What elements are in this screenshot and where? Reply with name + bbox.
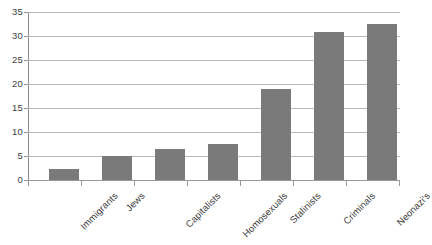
x-axis-baseline	[28, 180, 400, 181]
bar-immigrants[interactable]	[49, 169, 79, 180]
x-tick-mark	[134, 181, 135, 186]
x-tick-mark	[293, 181, 294, 186]
x-tick-mark	[187, 181, 188, 186]
bar-criminals[interactable]	[314, 32, 344, 180]
y-tick-label: 10	[3, 127, 23, 137]
bar-neonazis[interactable]	[367, 24, 397, 180]
y-axis-tick-labels: 35 30 25 20 15 10 5 0	[0, 0, 23, 245]
x-tick-label-capitalists[interactable]: Capitalists	[183, 190, 223, 230]
x-tick-mark	[346, 181, 347, 186]
y-tick-label: 20	[3, 79, 23, 89]
x-tick-label-criminals[interactable]: Criminals	[341, 190, 377, 226]
y-tick-label: 15	[3, 103, 23, 113]
x-tick-mark	[399, 181, 400, 186]
x-tick-mark	[81, 181, 82, 186]
x-tick-mark	[240, 181, 241, 186]
x-tick-label-jews[interactable]: Jews	[123, 190, 146, 213]
y-tick-label: 35	[3, 7, 23, 17]
bar-homosexuals[interactable]	[208, 144, 238, 180]
x-tick-label-homosexuals[interactable]: Homosexuals	[240, 190, 289, 239]
bar-capitalists[interactable]	[155, 149, 185, 180]
x-tick-mark	[28, 181, 29, 186]
bar-jews[interactable]	[102, 156, 132, 180]
y-tick-label: 0	[3, 175, 23, 185]
x-tick-label-immigrants[interactable]: Immigrants	[78, 190, 120, 232]
y-tick-label: 30	[3, 31, 23, 41]
y-tick-label: 5	[3, 151, 23, 161]
y-tick-label: 25	[3, 55, 23, 65]
x-tick-label-stalinists[interactable]: Stalinists	[287, 190, 322, 225]
bar-stalinists[interactable]	[261, 89, 291, 180]
x-tick-label-neonazis[interactable]: Neonazi's	[394, 190, 432, 228]
bars-layer	[28, 12, 400, 180]
plot-area	[28, 12, 400, 180]
